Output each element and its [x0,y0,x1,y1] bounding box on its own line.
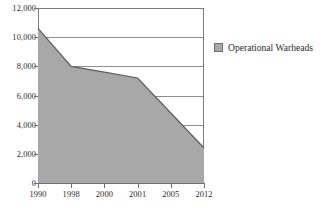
x-tickmark [138,184,139,188]
y-tick-label: 2,000 [0,149,36,158]
y-axis-labels: 02,0004,0006,0008,00010,00012,000 [0,0,36,190]
area-fill [38,28,204,183]
y-tick-label: 6,000 [0,91,36,100]
legend-label-operational-warheads: Operational Warheads [228,42,313,53]
y-tickmark [34,66,38,67]
x-tick-label: 2001 [129,190,146,200]
y-tick-label: 12,000 [0,4,36,13]
x-tickmark [71,184,72,188]
x-tickmark [171,184,172,188]
series-operational-warheads [38,8,204,184]
area-chart: 02,0004,0006,0008,00010,00012,000 199019… [0,0,321,210]
x-tick-label: 1998 [63,190,80,200]
y-tickmark [34,37,38,38]
x-tick-label: 2012 [195,190,212,200]
x-tickmark [104,184,105,188]
y-tickmark [34,8,38,9]
x-tick-label: 2005 [162,190,179,200]
y-tick-label: 10,000 [0,33,36,42]
y-tick-label: 0 [0,179,36,188]
x-tickmark [204,184,205,188]
x-tickmark [38,184,39,188]
x-tick-label: 1990 [29,190,46,200]
chart-legend: Operational Warheads [214,42,313,53]
y-tickmark [34,125,38,126]
x-tick-label: 2000 [96,190,113,200]
y-tick-label: 8,000 [0,62,36,71]
legend-swatch-operational-warheads [214,43,223,52]
y-tick-label: 4,000 [0,120,36,129]
y-tickmark [34,96,38,97]
y-tickmark [34,154,38,155]
y-tickmark [34,183,38,184]
